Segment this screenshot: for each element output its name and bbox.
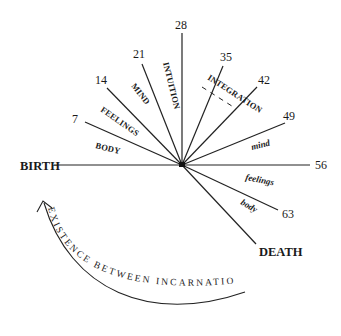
label-mind-ascending: MIND bbox=[129, 81, 152, 106]
age-28: 28 bbox=[175, 18, 187, 32]
age-49: 49 bbox=[283, 109, 295, 123]
label-mind-descending: mind bbox=[250, 138, 271, 152]
label-feelings-ascending: FEELINGS bbox=[99, 104, 141, 138]
age-35: 35 bbox=[220, 50, 232, 64]
age-21: 21 bbox=[133, 47, 145, 61]
ray-63 bbox=[182, 165, 278, 210]
age-7: 7 bbox=[72, 112, 78, 126]
life-cycle-diagram: 7 14 21 28 35 42 49 56 63 BIRTH DEATH BO… bbox=[0, 0, 341, 336]
cycle-arrow-label-path: EXISTENCE BETWEEN INCARNATIONS bbox=[0, 0, 236, 288]
label-intuition-ascending: INTUITION bbox=[161, 61, 182, 111]
age-56: 56 bbox=[315, 158, 327, 172]
age-42: 42 bbox=[258, 73, 270, 87]
rays bbox=[54, 33, 310, 244]
age-14: 14 bbox=[95, 73, 107, 87]
label-body-ascending: BODY bbox=[95, 140, 122, 156]
death-label: DEATH bbox=[259, 245, 303, 259]
cycle-arrow-label: EXISTENCE BETWEEN INCARNATIONS bbox=[0, 0, 236, 288]
incarnation-cycle-arrow: EXISTENCE BETWEEN INCARNATIONS bbox=[0, 0, 245, 304]
label-feelings-descending: feelings bbox=[245, 172, 276, 187]
center-point bbox=[179, 162, 185, 167]
descending-phase-labels: mind feelings body bbox=[239, 138, 275, 215]
birth-label: BIRTH bbox=[20, 159, 60, 173]
age-63: 63 bbox=[282, 207, 294, 221]
